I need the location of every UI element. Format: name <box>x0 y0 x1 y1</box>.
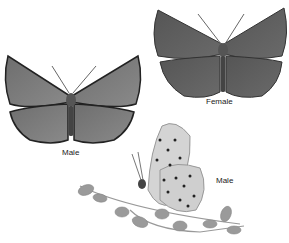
male-side-butterfly <box>132 124 204 212</box>
butterfly-illustration: Male Female Male <box>0 0 289 243</box>
female-open-label: Female <box>206 97 233 106</box>
male-open-label: Male <box>62 148 79 157</box>
male-open-butterfly <box>5 56 140 143</box>
female-open-butterfly <box>154 8 287 97</box>
butterfly-drawing <box>0 0 289 243</box>
male-side-label: Male <box>216 176 233 185</box>
